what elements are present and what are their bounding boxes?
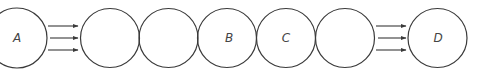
circle-a (0, 8, 47, 68)
label-d: D (433, 31, 442, 45)
circle-3 (139, 9, 198, 68)
label-b: B (225, 31, 233, 45)
circle-2 (81, 9, 140, 68)
circle-chain-diagram: A B C D (0, 0, 480, 75)
arrow-group-6-to-d (376, 26, 406, 50)
arrow-group-a-to-2 (48, 26, 78, 50)
label-c: C (282, 31, 291, 45)
label-a: A (12, 31, 21, 45)
circle-6 (316, 9, 375, 68)
